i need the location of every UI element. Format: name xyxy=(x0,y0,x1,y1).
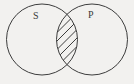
venn-diagram-figure: S P xyxy=(0,0,134,84)
figure-background xyxy=(0,0,134,84)
venn-diagram-canvas xyxy=(0,0,134,84)
set-label-p: P xyxy=(88,10,94,20)
set-label-s: S xyxy=(33,11,39,21)
